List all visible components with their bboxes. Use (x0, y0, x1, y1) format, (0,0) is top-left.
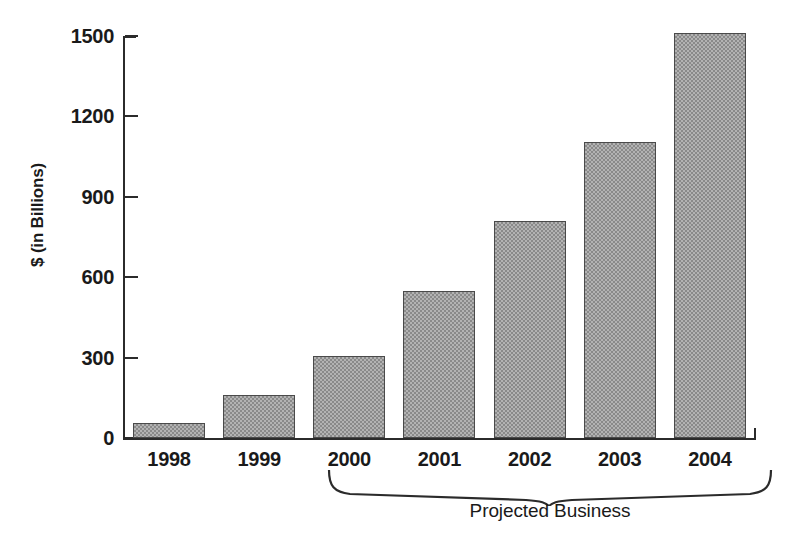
y-axis-tick-label: 900 (42, 187, 114, 207)
bar-2001 (403, 291, 475, 438)
x-axis-line (123, 438, 756, 440)
y-axis-tick-label: 300 (42, 348, 114, 368)
bar-2002 (494, 221, 566, 438)
x-axis-label-2001: 2001 (394, 449, 484, 469)
y-axis-tick-label: 1200 (42, 106, 114, 126)
x-axis-label-2004: 2004 (665, 449, 755, 469)
x-axis-label-1998: 1998 (124, 449, 214, 469)
projected-business-label: Projected Business (330, 500, 770, 522)
y-axis-tick-label: 0 (42, 428, 114, 448)
bar-chart: $ (in Billions) 030060090012001500 19981… (0, 0, 794, 558)
plot-area (125, 36, 756, 438)
bar-1998 (133, 423, 205, 438)
y-axis-tick-label: 600 (42, 267, 114, 287)
x-axis-label-2000: 2000 (304, 449, 394, 469)
x-axis-label-2003: 2003 (575, 449, 665, 469)
bar-2003 (584, 142, 656, 438)
x-axis-label-1999: 1999 (214, 449, 304, 469)
bar-1999 (223, 395, 295, 438)
bar-2000 (313, 356, 385, 438)
bar-2004 (674, 33, 746, 438)
x-axis-label-2002: 2002 (485, 449, 575, 469)
y-axis-tick-label: 1500 (42, 26, 114, 46)
